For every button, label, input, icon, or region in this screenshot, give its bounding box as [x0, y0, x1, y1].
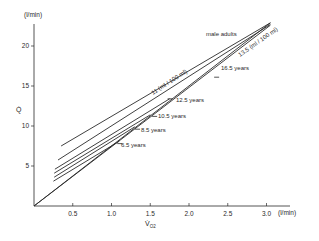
- series-line: [55, 99, 170, 169]
- label-male-adults: male adults: [206, 31, 237, 37]
- x-tick-label: 3.0: [262, 210, 271, 217]
- x-axis-title: V̇O2: [145, 220, 156, 229]
- x-tick-label: 1.0: [107, 210, 116, 217]
- y-tick-label: 10: [22, 122, 30, 129]
- x-tick-label: 2.0: [184, 210, 193, 217]
- x-tick-label: 0.5: [68, 210, 77, 217]
- label-ref-11: 11 (ml / 100 ml): [150, 68, 188, 95]
- x-tick-label: 2.5: [223, 210, 232, 217]
- series-line: [54, 127, 135, 177]
- label-age-6-5: 6.5 years: [121, 142, 146, 148]
- axes: 0.51.01.52.02.53.05101520: [22, 24, 290, 217]
- y-axis-unit: (l/min): [24, 11, 42, 19]
- cardiac-output-vs-oxygen-uptake-chart: 0.51.01.52.02.53.05101520 (l/min) Q̇ (l/…: [0, 0, 319, 241]
- label-age-10-5: 10.5 years: [158, 113, 186, 119]
- label-age-12-5: 12.5 years: [176, 97, 204, 103]
- y-tick-label: 20: [22, 42, 30, 49]
- series-line: [34, 25, 270, 206]
- x-axis-unit: (l/min): [278, 209, 296, 217]
- label-age-16-5: 16.5 years: [221, 65, 249, 71]
- y-axis-title: Q̇: [16, 106, 22, 114]
- series-line: [53, 141, 119, 181]
- data-lines: [34, 23, 270, 206]
- y-tick-label: 15: [22, 82, 30, 89]
- x-tick-label: 1.5: [146, 210, 155, 217]
- series-line: [58, 24, 270, 160]
- label-age-8-5: 8.5 years: [141, 127, 166, 133]
- y-tick-label: 5: [25, 162, 29, 169]
